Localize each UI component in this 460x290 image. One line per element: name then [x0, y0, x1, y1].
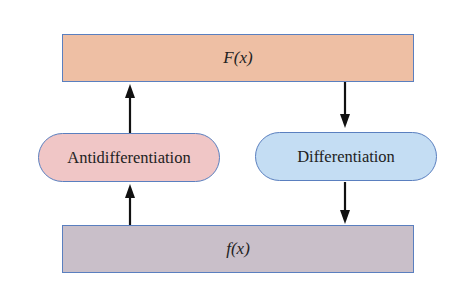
function-label: f(x) — [226, 239, 250, 259]
differentiation-process: Differentiation — [255, 132, 437, 181]
antiderivative-label: F(x) — [223, 48, 252, 68]
antidifferentiation-label: Antidifferentiation — [67, 148, 190, 168]
differentiation-label: Differentiation — [297, 147, 395, 167]
antiderivative-box: F(x) — [62, 34, 414, 82]
diagram-canvas: F(x) Antidifferentiation Differentiation… — [0, 0, 460, 290]
function-box: f(x) — [62, 225, 414, 273]
antidifferentiation-process: Antidifferentiation — [38, 133, 220, 182]
